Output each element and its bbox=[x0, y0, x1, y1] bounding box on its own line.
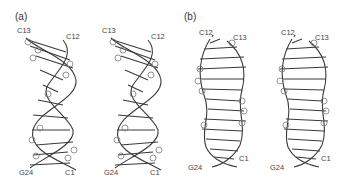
atom-label-g24: G24 bbox=[188, 163, 202, 172]
atom-label-g24: G24 bbox=[19, 168, 33, 177]
atom-label-c1: C1 bbox=[150, 168, 160, 177]
atom-label-g24: G24 bbox=[104, 168, 118, 177]
panel-label-b: (b) bbox=[184, 11, 196, 22]
atom-label-g24: G24 bbox=[270, 163, 284, 172]
panel-label-a: (a) bbox=[15, 11, 27, 22]
atom-label-c1: C1 bbox=[321, 154, 331, 163]
dna-helix-structure-b-right bbox=[274, 35, 336, 170]
atom-label-c1: C1 bbox=[239, 154, 249, 163]
atom-label-c1: C1 bbox=[65, 168, 75, 177]
dna-helix-structure-b-left bbox=[192, 35, 254, 170]
dna-helix-structure-a-right bbox=[103, 30, 173, 172]
dna-helix-structure-a-left bbox=[18, 30, 88, 172]
